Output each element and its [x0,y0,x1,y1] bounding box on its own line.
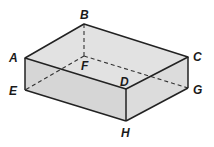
label-D: D [120,75,129,89]
label-F: F [81,59,89,73]
prism-diagram: A B C D E F G H [0,0,214,147]
prism-svg: A B C D E F G H [0,0,214,147]
label-E: E [9,84,18,98]
label-A: A [8,51,18,65]
label-G: G [193,83,202,97]
label-C: C [193,50,202,64]
label-H: H [121,126,130,140]
label-B: B [80,8,89,22]
